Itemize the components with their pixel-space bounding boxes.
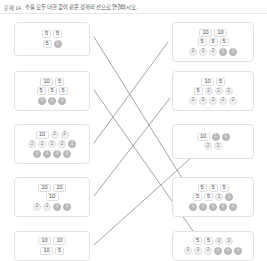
- money-chip-ten: 10: [38, 184, 51, 192]
- money-chip-five: 5: [209, 38, 218, 46]
- chip-row: 11111: [189, 203, 237, 211]
- coin-chip-one: 1: [53, 203, 61, 211]
- right-card-1[interactable]: 101055522211: [172, 22, 254, 62]
- chip-row: 105: [201, 78, 225, 86]
- coin-chip-two: 2: [225, 237, 233, 245]
- chip-row: 2211: [33, 203, 71, 211]
- chip-row: 105: [40, 247, 64, 255]
- coin-chip-two: 2: [199, 48, 207, 56]
- line-4[interactable]: [94, 98, 170, 196]
- coin-chip-one: 1: [225, 193, 233, 201]
- coin-chip-two: 2: [214, 142, 222, 150]
- money-chip-five: 5: [193, 237, 202, 245]
- money-chip-ten: 10: [38, 237, 51, 245]
- right-card-3[interactable]: 101122: [172, 124, 254, 159]
- chip-row: 1011: [197, 133, 230, 141]
- header-divider: [0, 13, 267, 14]
- left-card-4[interactable]: 1010102211: [14, 177, 90, 217]
- money-chip-five: 5: [204, 237, 213, 245]
- coin-chip-two: 2: [215, 87, 223, 95]
- chip-row: 1111: [33, 150, 71, 158]
- right-card-2[interactable]: 105522222222: [172, 71, 254, 111]
- money-chip-five: 5: [220, 38, 229, 46]
- chip-row: 55: [42, 30, 62, 38]
- line-3[interactable]: [94, 42, 168, 143]
- coin-chip-two: 2: [204, 142, 212, 150]
- chip-row: 555: [198, 38, 229, 46]
- left-card-1[interactable]: 5551: [14, 22, 90, 56]
- chip-row: 5521: [193, 193, 233, 201]
- chip-row: 22222: [189, 97, 237, 105]
- coin-chip-one: 1: [53, 150, 61, 158]
- chip-row: 111: [38, 97, 66, 105]
- coin-chip-two: 2: [28, 140, 36, 148]
- coin-chip-two: 2: [189, 48, 197, 56]
- question-number: 문제 14: [4, 4, 21, 11]
- money-chip-five: 5: [198, 38, 207, 46]
- money-chip-five: 5: [43, 40, 52, 48]
- right-card-4[interactable]: 555552111111: [172, 177, 254, 217]
- money-chip-five: 5: [55, 78, 64, 86]
- money-chip-five: 5: [42, 30, 51, 38]
- chip-row: 1010: [38, 184, 66, 192]
- coin-chip-one: 1: [219, 48, 227, 56]
- question-header: 문제 14 수를 모두 더한 값이 같은 것끼리 선으로 연결하시오.: [0, 0, 267, 14]
- chip-row: 5222: [194, 87, 233, 95]
- coin-chip-one: 1: [229, 48, 237, 56]
- coin-chip-one: 1: [209, 203, 217, 211]
- coin-chip-one: 1: [214, 247, 222, 255]
- chip-row: 105: [40, 78, 64, 86]
- left-card-3[interactable]: 1022222211111: [14, 124, 90, 164]
- money-chip-ten: 10: [197, 133, 210, 141]
- money-chip-five: 5: [37, 87, 46, 95]
- money-chip-ten: 10: [201, 78, 214, 86]
- money-chip-ten: 10: [214, 29, 227, 37]
- coin-chip-two: 2: [225, 87, 233, 95]
- coin-chip-one: 1: [33, 150, 41, 158]
- coin-chip-two: 2: [184, 247, 192, 255]
- question-instruction: 수를 모두 더한 값이 같은 것끼리 선으로 연결하시오.: [25, 3, 138, 11]
- coin-chip-two: 2: [48, 140, 56, 148]
- money-chip-ten: 10: [40, 78, 53, 86]
- money-chip-five: 5: [220, 184, 229, 192]
- left-card-2[interactable]: 105555111: [14, 71, 90, 111]
- left-card-5[interactable]: 1010105: [14, 231, 90, 261]
- money-chip-five: 5: [204, 193, 213, 201]
- chip-row: 22: [204, 142, 222, 150]
- money-chip-five: 5: [198, 184, 207, 192]
- coin-chip-two: 2: [219, 97, 227, 105]
- coin-chip-one: 1: [58, 97, 66, 105]
- chip-row: 222111: [184, 247, 242, 255]
- coin-chip-one: 1: [43, 150, 51, 158]
- coin-chip-two: 2: [229, 97, 237, 105]
- money-chip-ten: 10: [46, 193, 59, 201]
- coin-chip-one: 1: [48, 97, 56, 105]
- coin-chip-two: 2: [43, 203, 51, 211]
- coin-chip-two: 2: [215, 237, 223, 245]
- coin-chip-one: 1: [212, 133, 220, 141]
- chip-row: 1022: [36, 131, 69, 139]
- chip-row: 555: [37, 87, 68, 95]
- coin-chip-one: 1: [189, 203, 197, 211]
- right-card-5[interactable]: 5522222111: [172, 231, 254, 261]
- chip-row: 1010: [38, 237, 66, 245]
- coin-chip-two: 2: [199, 97, 207, 105]
- coin-chip-two: 2: [189, 97, 197, 105]
- chip-row: 22211: [189, 48, 237, 56]
- chip-row: 10: [46, 193, 59, 201]
- coin-chip-one: 1: [54, 40, 62, 48]
- money-chip-ten: 10: [53, 237, 66, 245]
- coin-chip-two: 2: [61, 131, 69, 139]
- chip-row: 555: [198, 184, 229, 192]
- money-chip-five: 5: [216, 78, 225, 86]
- money-chip-five: 5: [48, 87, 57, 95]
- coin-chip-one: 1: [68, 140, 76, 148]
- coin-chip-one: 1: [63, 150, 71, 158]
- chip-row: 22221: [28, 140, 76, 148]
- coin-chip-one: 1: [229, 203, 237, 211]
- coin-chip-one: 1: [63, 203, 71, 211]
- money-chip-five: 5: [193, 193, 202, 201]
- money-chip-ten: 10: [199, 29, 212, 37]
- coin-chip-two: 2: [194, 247, 202, 255]
- money-chip-ten: 10: [53, 184, 66, 192]
